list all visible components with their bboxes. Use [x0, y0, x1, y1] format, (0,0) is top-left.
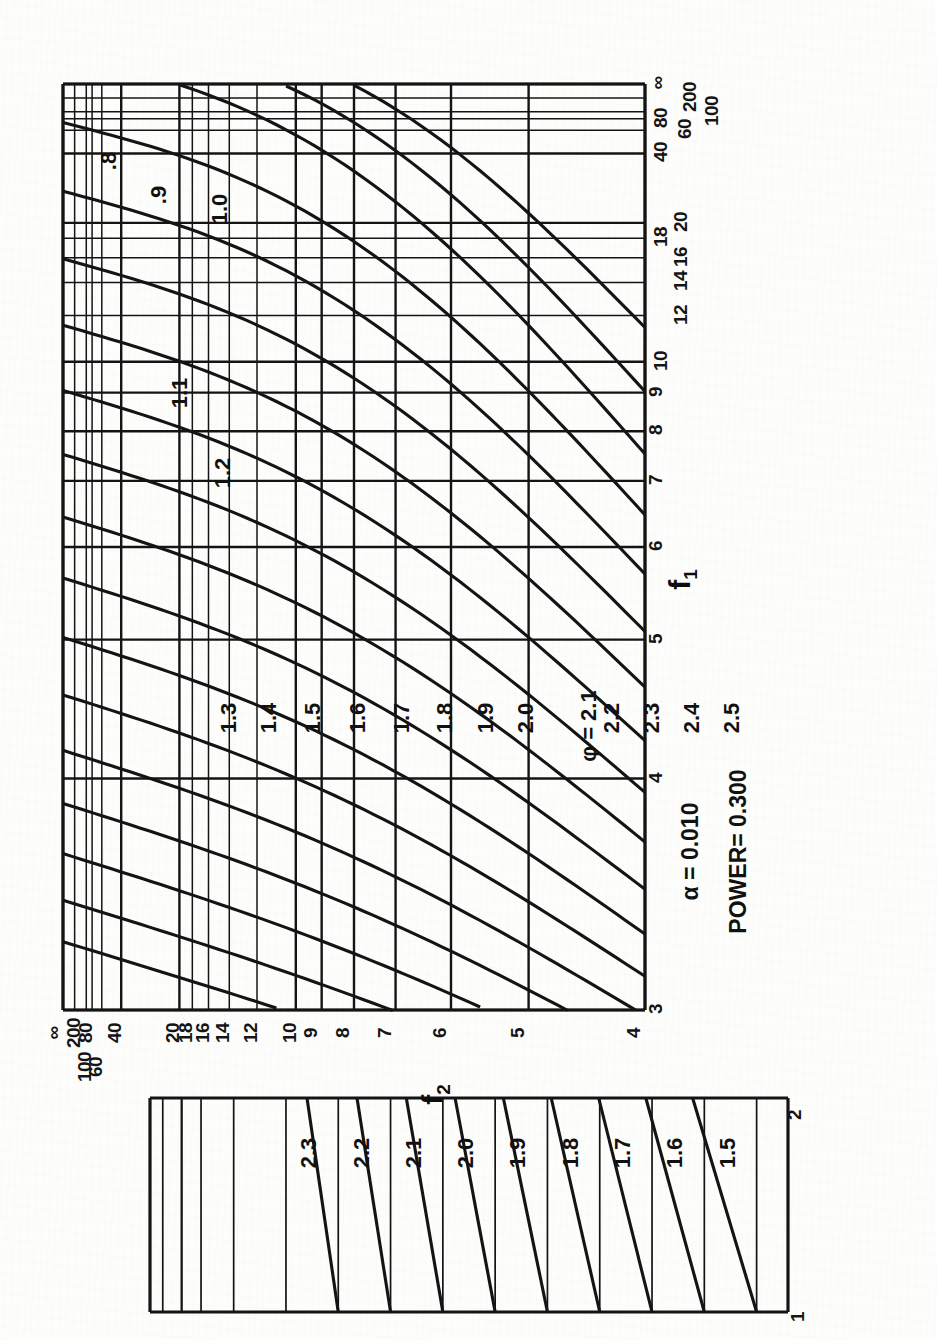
inset-phi-label-2.1: 2.1: [401, 1138, 427, 1169]
f1-tick-10: 10: [650, 351, 672, 371]
phi-curve-.8: [354, 85, 645, 327]
f2-tick-9: 9: [300, 1028, 322, 1038]
inset-phi-label-1.5: 1.5: [715, 1138, 741, 1169]
f1-tick-3: 3: [645, 1004, 667, 1014]
phi-label-1.6: 1.6: [345, 703, 371, 734]
alpha-annotation: α = 0.010: [677, 722, 704, 982]
f1-tick-12: 12: [670, 304, 692, 324]
inset-phi-label-1.9: 1.9: [506, 1138, 532, 1169]
f2-tick-∞: ∞: [43, 1026, 65, 1039]
f1-tick-100: 100: [701, 96, 723, 126]
f1-tick-200: 200: [679, 82, 701, 112]
phi-label-.8: .8: [96, 152, 122, 170]
f2-tick-4: 4: [623, 1028, 645, 1038]
f2-tick-6: 6: [429, 1028, 451, 1038]
inset-phi-label-1.7: 1.7: [610, 1138, 636, 1169]
inset-curve-2.3: [307, 1098, 338, 1312]
phi-label-2.3: 2.3: [639, 703, 665, 734]
phi-label-1.8: 1.8: [432, 703, 458, 734]
inset-curve-1.6: [646, 1098, 705, 1312]
phi-label-1.3: 1.3: [216, 703, 242, 734]
phi-label-1.2: 1.2: [210, 458, 236, 489]
f2-tick-40: 40: [104, 1023, 126, 1043]
f2-tick-8: 8: [332, 1028, 354, 1038]
phi-label-1.4: 1.4: [256, 703, 282, 734]
phi-curve-2.3: [63, 854, 480, 1007]
f1-tick-9: 9: [645, 387, 667, 397]
inset-curve-1.8: [551, 1098, 600, 1312]
inset-tick-top: 2: [784, 1110, 806, 1120]
f2-tick-60: 60: [85, 1057, 107, 1077]
nomogram-plate: 3456789101214161820406080100200∞ ∞200100…: [0, 0, 937, 1339]
figure-canvas: 3456789101214161820406080100200∞ ∞200100…: [0, 0, 937, 1339]
phi-curve-1.0: [179, 85, 645, 454]
f1-tick-18: 18: [650, 227, 672, 247]
f1-tick-8: 8: [645, 425, 667, 435]
f1-axis-name: f1: [663, 569, 702, 590]
phi-curve-2.5: [63, 942, 276, 1008]
inset-phi-label-2.0: 2.0: [453, 1138, 479, 1169]
inset-curve-1.5: [693, 1098, 757, 1312]
f2-tick-5: 5: [507, 1028, 529, 1038]
f1-tick-40: 40: [650, 142, 672, 162]
f2-tick-12: 12: [240, 1023, 262, 1043]
f1-tick-16: 16: [670, 247, 692, 267]
inset-phi-label-1.8: 1.8: [558, 1138, 584, 1169]
inset-curve-1.9: [503, 1098, 547, 1312]
f1-tick-20: 20: [670, 212, 692, 232]
f2-axis-name: f2: [416, 1084, 455, 1105]
phi-equals-label: φ = 2.1: [576, 690, 602, 761]
phi-label-2.2: 2.2: [599, 703, 625, 734]
inset-curve-2.2: [357, 1098, 391, 1312]
f1-tick-5: 5: [645, 634, 667, 644]
phi-curve-2.2: [63, 803, 567, 1010]
phi-label-.9: .9: [146, 186, 172, 204]
inset-curve-2.0: [455, 1098, 495, 1312]
phi-label-2.0: 2.0: [513, 703, 539, 734]
f2-tick-80: 80: [75, 1023, 97, 1043]
f1-tick-14: 14: [670, 271, 692, 291]
inset-tick-bottom: 1: [787, 1312, 809, 1322]
f2-tick-7: 7: [374, 1028, 396, 1038]
inset-curve-1.7: [599, 1098, 652, 1312]
f2-tick-14: 14: [212, 1023, 234, 1043]
inset-curve-2.1: [406, 1098, 443, 1312]
f2-tick-16: 16: [192, 1023, 214, 1043]
phi-label-1.7: 1.7: [389, 703, 415, 734]
f1-tick-4: 4: [645, 772, 667, 782]
phi-label-1.0: 1.0: [207, 194, 233, 225]
f1-tick-6: 6: [645, 541, 667, 551]
f1-tick-60: 60: [674, 119, 696, 139]
inset-phi-label-2.2: 2.2: [349, 1138, 375, 1169]
phi-label-1.9: 1.9: [473, 703, 499, 734]
f1-tick-80: 80: [650, 108, 672, 128]
phi-label-1.1: 1.1: [167, 378, 193, 409]
f2-tick-10: 10: [279, 1023, 301, 1043]
f1-tick-∞: ∞: [647, 76, 669, 89]
phi-label-1.5: 1.5: [300, 703, 326, 734]
inset-phi-label-2.3: 2.3: [297, 1138, 323, 1169]
power-annotation: POWER= 0.300: [725, 702, 752, 1002]
f1-tick-7: 7: [645, 475, 667, 485]
inset-phi-label-1.6: 1.6: [663, 1138, 689, 1169]
